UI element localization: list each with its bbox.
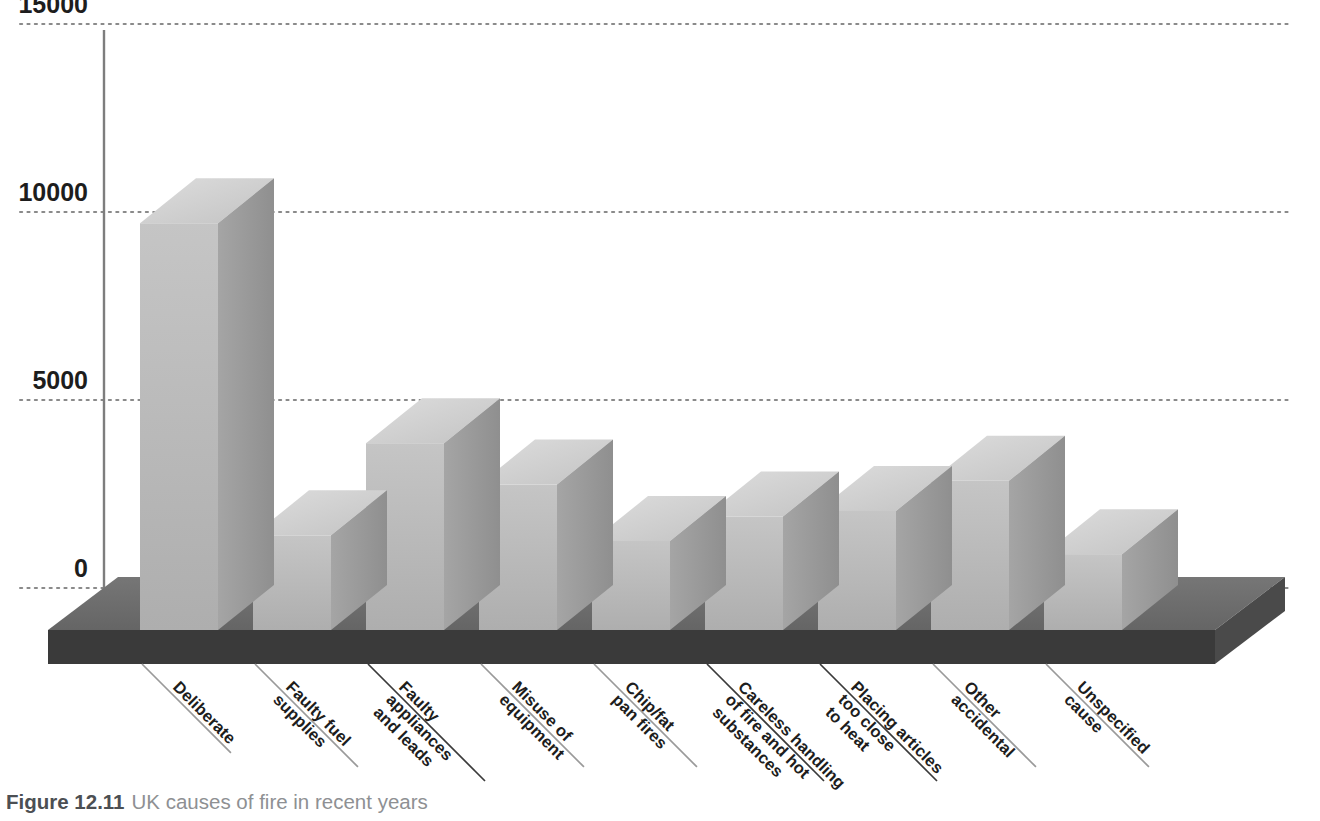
bar-front-face <box>140 223 218 630</box>
figure-caption: Figure 12.11UK causes of fire in recent … <box>6 789 1306 815</box>
category-label-6: Careless handlingof fire and hotsubstanc… <box>709 677 849 790</box>
bar-1 <box>140 178 274 630</box>
caption-text: UK causes of fire in recent years <box>132 790 428 813</box>
category-label-9: Unspecifiedcause <box>1061 677 1153 769</box>
y-tick-label-15000: 15000 <box>18 0 88 18</box>
category-label-line: Deliberate <box>170 677 240 747</box>
leader-line-1 <box>142 664 231 753</box>
caption-figure-number: Figure 12.11 <box>6 790 125 813</box>
figure-container: 150001000050000 DeliberateFaulty fuelsup… <box>0 0 1320 821</box>
y-axis-tick-labels: 150001000050000 <box>18 0 88 582</box>
floor-front-face <box>48 630 1215 664</box>
category-label-1: Deliberate <box>170 677 240 747</box>
bars-layer <box>140 178 1178 630</box>
category-label-4: Misuse ofequipment <box>496 677 581 762</box>
category-label-5: Chip/fatpan fires <box>609 677 684 752</box>
y-tick-label-10000: 10000 <box>18 178 88 206</box>
y-tick-label-0: 0 <box>74 554 88 582</box>
category-label-2: Faulty fuelsupplies <box>270 677 355 762</box>
category-labels: DeliberateFaulty fuelsuppliesFaultyappli… <box>170 677 1154 790</box>
y-tick-label-5000: 5000 <box>32 366 88 394</box>
category-label-8: Otheraccidental <box>948 677 1031 760</box>
category-label-3: Faultyappliancesand leads <box>370 677 469 776</box>
bar-side-face <box>218 178 274 630</box>
bar-chart-3d: 150001000050000 DeliberateFaulty fuelsup… <box>0 0 1320 790</box>
